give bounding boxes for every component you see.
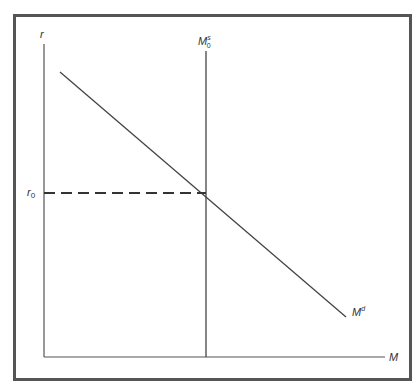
r0-label: r0 bbox=[27, 186, 36, 200]
money-market-diagram: r M r0 Ms0 Md bbox=[0, 0, 420, 386]
money-demand-line bbox=[60, 72, 346, 317]
y-axis-label: r bbox=[40, 28, 45, 40]
money-supply-label: Ms0 bbox=[198, 34, 211, 49]
x-axis-label: M bbox=[389, 351, 399, 363]
money-demand-label: Md bbox=[352, 305, 366, 318]
